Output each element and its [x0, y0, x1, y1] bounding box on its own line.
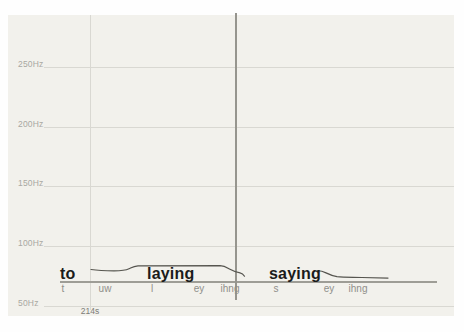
y-tick-label: 250Hz [18, 59, 44, 69]
y-gridline [44, 306, 454, 307]
time-cursor-line[interactable] [235, 13, 237, 300]
time-tick-label: 214s [81, 307, 99, 316]
pitch-contour-figure: 250Hz 200Hz 150Hz 100Hz 50Hz tolayingsay… [0, 0, 464, 332]
y-tick-label: 50Hz [18, 298, 39, 308]
phoneme-label: ey [194, 284, 205, 294]
y-gridline [44, 246, 454, 247]
y-gridline [44, 67, 454, 68]
time-axis-line [60, 281, 437, 283]
y-tick-label: 150Hz [18, 178, 44, 188]
phoneme-label: l [151, 284, 153, 294]
phoneme-label: ihng [349, 284, 368, 294]
y-gridline [44, 186, 454, 187]
phoneme-label: ey [324, 284, 335, 294]
y-gridline [44, 127, 454, 128]
y-tick-label: 100Hz [18, 238, 44, 248]
phoneme-label: uw [99, 284, 112, 294]
x-gridline [90, 15, 91, 310]
word-label: laying [147, 266, 194, 282]
word-label: saying [269, 266, 321, 282]
y-tick-label: 200Hz [18, 119, 44, 129]
phoneme-label: t [62, 284, 65, 294]
word-label: to [60, 266, 76, 282]
phoneme-label: s [274, 284, 279, 294]
phoneme-label: ihng [221, 284, 240, 294]
